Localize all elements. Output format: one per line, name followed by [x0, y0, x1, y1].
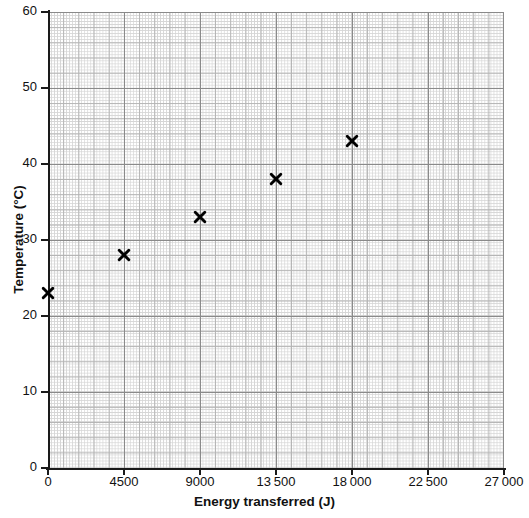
plot-area: [48, 12, 504, 468]
plot-border-right: [503, 12, 504, 468]
cropped-title-fragment: [0, 0, 529, 1]
y-tick-label-50: 50: [0, 79, 37, 94]
y-axis-line: [48, 10, 50, 470]
data-point: [344, 133, 360, 149]
data-point: [268, 171, 284, 187]
scatter-chart: 0102030405060 04500900013 50018 00022 50…: [0, 0, 529, 518]
x-tick-label-22500: 22 500: [409, 474, 448, 489]
y-tick-50: [41, 87, 48, 89]
y-tick-40: [41, 163, 48, 165]
y-tick-label-60: 60: [0, 3, 37, 18]
x-tick-label-13500: 13 500: [257, 474, 296, 489]
y-tick-20: [41, 315, 48, 317]
data-point: [40, 285, 56, 301]
y-tick-label-10: 10: [0, 383, 37, 398]
x-tick-label-0: 0: [44, 474, 51, 489]
y-tick-10: [41, 391, 48, 393]
y-tick-60: [41, 11, 48, 13]
data-point: [192, 209, 208, 225]
x-tick-label-18000: 18 000: [333, 474, 372, 489]
x-tick-label-27000: 27 000: [485, 474, 524, 489]
x-tick-label-9000: 9000: [186, 474, 215, 489]
plot-border-top: [48, 12, 504, 13]
data-point: [116, 247, 132, 263]
y-tick-30: [41, 239, 48, 241]
y-axis-title: Temperature (°C): [11, 130, 26, 350]
x-tick-label-4500: 4500: [110, 474, 139, 489]
y-tick-label-0: 0: [0, 459, 37, 474]
x-axis-title: Energy transferred (J): [0, 494, 529, 509]
